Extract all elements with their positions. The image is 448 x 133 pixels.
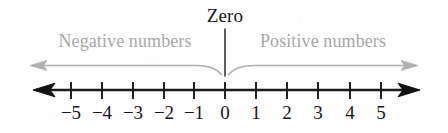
tick-label: 5 bbox=[376, 103, 386, 122]
tick-label: −3 bbox=[123, 103, 143, 122]
positive-region-brace bbox=[229, 61, 419, 75]
tick-label: −4 bbox=[92, 103, 112, 122]
tick-label: −5 bbox=[61, 103, 81, 122]
zero-annotation-label: Zero bbox=[0, 6, 448, 25]
tick-label: 1 bbox=[251, 103, 261, 122]
axis-tick-labels: −5−4−3−2−1012345 bbox=[0, 103, 448, 131]
tick-label: 2 bbox=[282, 103, 292, 122]
tick-label: 4 bbox=[345, 103, 355, 122]
tick-label: 3 bbox=[313, 103, 323, 122]
zero-annotation-text: Zero bbox=[207, 5, 244, 26]
tick-label: −2 bbox=[154, 103, 174, 122]
positive-numbers-label: Positive numbers bbox=[198, 32, 448, 50]
tick-label: 0 bbox=[220, 103, 230, 122]
negative-region-brace bbox=[30, 61, 222, 75]
number-line-axis bbox=[33, 83, 420, 97]
tick-label: −1 bbox=[184, 103, 204, 122]
number-line-figure: Zero Negative numbers Positive numbers −… bbox=[0, 0, 448, 133]
